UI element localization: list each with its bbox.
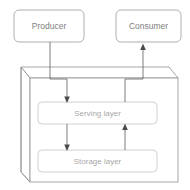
serving-layer-label: Serving layer: [74, 109, 121, 118]
node-consumer[interactable]: Consumer: [116, 10, 181, 42]
consumer-label: Consumer: [129, 21, 168, 31]
producer-label: Producer: [32, 21, 67, 31]
node-storage-layer[interactable]: Storage layer: [38, 150, 157, 172]
container-top-face: [21, 67, 178, 78]
container-left-face: [21, 67, 30, 182]
diagram-svg: Producer Consumer Serving layer Storage …: [0, 0, 190, 190]
node-producer[interactable]: Producer: [14, 10, 84, 42]
diagram-canvas: Producer Consumer Serving layer Storage …: [0, 0, 190, 190]
node-serving-layer[interactable]: Serving layer: [38, 102, 157, 124]
storage-layer-label: Storage layer: [74, 157, 122, 166]
serving-to-consumer-arrowhead: [140, 44, 146, 51]
